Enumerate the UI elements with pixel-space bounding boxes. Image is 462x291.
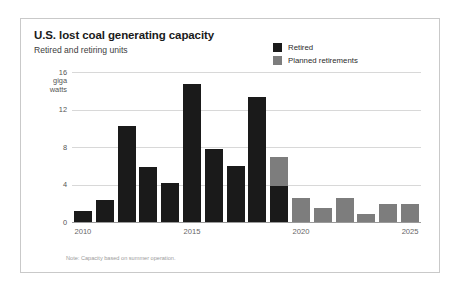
- chart-note: Note: Capacity based on summer operation…: [66, 255, 175, 261]
- bar-column[interactable]: [139, 167, 157, 223]
- x-axis-tick-label: 2010: [74, 227, 91, 236]
- bar-segment-retired: [118, 126, 136, 224]
- bar-column[interactable]: [401, 204, 419, 223]
- y-axis-tick-label: 0: [63, 219, 67, 227]
- bar-segment-retired: [183, 84, 201, 223]
- legend-item-planned-retirements[interactable]: Planned retirements: [273, 56, 358, 65]
- bar-segment-retired: [161, 183, 179, 223]
- bar-segment-retired: [270, 186, 288, 223]
- bar-column[interactable]: [270, 157, 288, 223]
- bar-column[interactable]: [96, 200, 114, 223]
- legend-swatch-retired: [273, 43, 282, 52]
- chart-title: U.S. lost coal generating capacity: [34, 29, 214, 41]
- chart-figure: U.S. lost coal generating capacity Retir…: [20, 18, 440, 273]
- bar-segment-planned: [401, 204, 419, 223]
- x-axis-tick-label: 2020: [293, 227, 310, 236]
- gridline: [72, 72, 421, 73]
- y-axis-tick-label: 12: [59, 106, 67, 114]
- bar-segment-planned: [292, 198, 310, 223]
- bar-segment-retired: [248, 97, 266, 223]
- bar-column[interactable]: [183, 84, 201, 223]
- plot-area: 0481216gigawatts 2010201520202025: [72, 73, 421, 223]
- bar-column[interactable]: [205, 149, 223, 223]
- bar-column[interactable]: [336, 198, 354, 223]
- bar-segment-planned: [314, 208, 332, 223]
- bar-segment-planned: [270, 157, 288, 186]
- chart-legend: Retired Planned retirements: [273, 43, 358, 69]
- bar-segment-retired: [96, 200, 114, 223]
- y-axis-tick-label: 4: [63, 181, 67, 189]
- x-axis-tick-label: 2015: [184, 227, 201, 236]
- bar-column[interactable]: [161, 183, 179, 223]
- y-axis-unit-label: gigawatts: [50, 77, 67, 94]
- x-axis-tick-label: 2025: [402, 227, 419, 236]
- legend-swatch-planned-retirements: [273, 56, 282, 65]
- legend-item-retired[interactable]: Retired: [273, 43, 358, 52]
- y-axis-tick-label: 8: [63, 144, 67, 152]
- bar-segment-planned: [336, 198, 354, 223]
- bar-column[interactable]: [379, 204, 397, 223]
- bar-column[interactable]: [314, 208, 332, 223]
- legend-label-retired: Retired: [288, 43, 313, 52]
- axis-baseline: [72, 222, 421, 223]
- legend-label-planned-retirements: Planned retirements: [288, 56, 358, 65]
- bar-segment-planned: [379, 204, 397, 223]
- bar-segment-retired: [139, 167, 157, 223]
- bar-segment-retired: [227, 166, 245, 223]
- bar-column[interactable]: [292, 198, 310, 223]
- gridline: [72, 110, 421, 111]
- bar-column[interactable]: [118, 126, 136, 224]
- bar-column[interactable]: [227, 166, 245, 223]
- bar-column[interactable]: [248, 97, 266, 223]
- bar-segment-retired: [205, 149, 223, 223]
- chart-subtitle: Retired and retiring units: [34, 45, 128, 55]
